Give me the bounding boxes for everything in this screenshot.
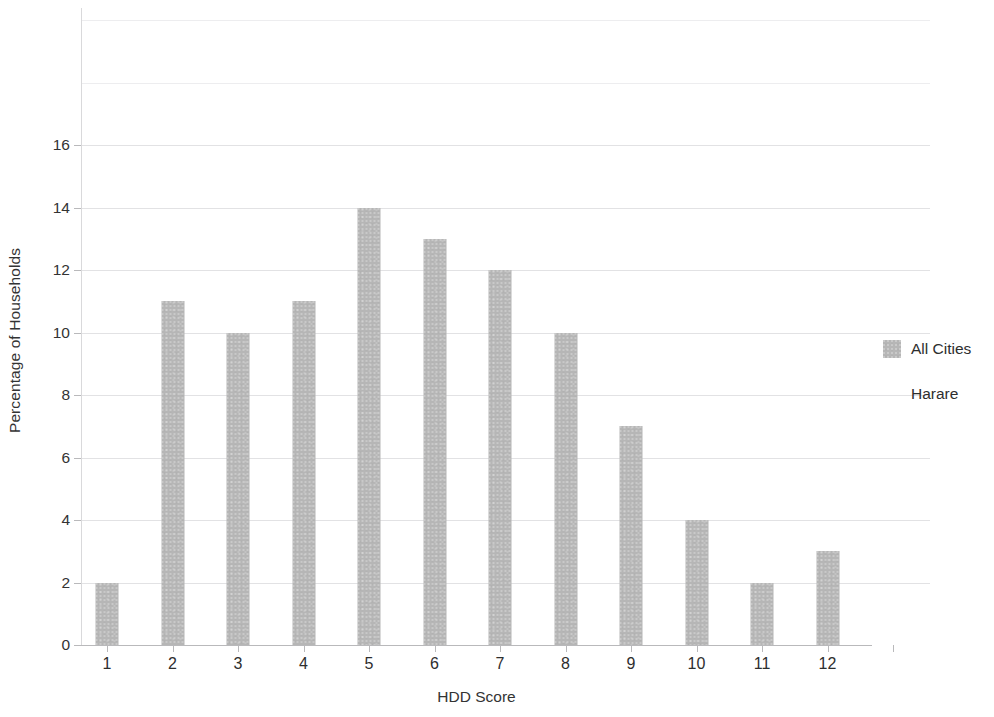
- bar: [489, 270, 512, 645]
- y-tick-mark: [74, 458, 81, 459]
- bar-chart: Percentage of Households 0246810121416 1…: [0, 0, 994, 717]
- y-tick-mark: [74, 333, 81, 334]
- gridline: [81, 208, 930, 209]
- y-tick-mark: [74, 145, 81, 146]
- legend-label: All Cities: [911, 340, 971, 358]
- y-tick-label: 8: [34, 386, 70, 404]
- y-tick-mark: [74, 208, 81, 209]
- bar: [816, 551, 839, 645]
- x-tick-mark: [304, 645, 305, 652]
- bar: [751, 583, 774, 646]
- gridline: [81, 145, 930, 146]
- x-tick-label: 7: [470, 655, 530, 673]
- y-tick-label: 12: [34, 261, 70, 279]
- bar: [358, 208, 381, 646]
- y-axis-title-label: Percentage of Households: [6, 248, 24, 433]
- legend-swatch-icon: [883, 340, 901, 358]
- x-tick-label: 11: [732, 655, 792, 673]
- gridline: [81, 83, 930, 84]
- y-tick-mark: [74, 395, 81, 396]
- x-tick-mark: [697, 645, 698, 652]
- x-tick-mark: [828, 645, 829, 652]
- x-tick-mark: [173, 645, 174, 652]
- y-tick-mark: [74, 645, 81, 646]
- y-axis-title: Percentage of Households: [0, 0, 30, 717]
- bar: [554, 333, 577, 646]
- bar: [620, 426, 643, 645]
- x-tick-mark: [369, 645, 370, 652]
- x-tick-label: 4: [274, 655, 334, 673]
- x-tick-label: 2: [143, 655, 203, 673]
- bar: [227, 333, 250, 646]
- bar: [423, 239, 446, 645]
- x-tick-label: 5: [339, 655, 399, 673]
- y-tick-label: 14: [34, 199, 70, 217]
- bar: [292, 301, 315, 645]
- x-tick-label: 10: [667, 655, 727, 673]
- y-tick-label: 0: [34, 636, 70, 654]
- y-axis-line: [81, 8, 82, 645]
- y-tick-label: 2: [34, 574, 70, 592]
- x-tick-mark: [500, 645, 501, 652]
- x-tick-mark: [893, 645, 894, 652]
- x-tick-label: 9: [601, 655, 661, 673]
- legend-label: Harare: [911, 385, 958, 403]
- gridline: [81, 20, 930, 21]
- x-tick-label: 8: [536, 655, 596, 673]
- legend-swatch-icon: [883, 385, 901, 403]
- bar: [161, 301, 184, 645]
- legend-item: All Cities: [883, 338, 971, 360]
- x-axis-line: [81, 645, 872, 646]
- x-tick-mark: [631, 645, 632, 652]
- y-tick-mark: [74, 583, 81, 584]
- x-tick-label: 1: [77, 655, 137, 673]
- y-tick-label: 6: [34, 449, 70, 467]
- bar: [685, 520, 708, 645]
- y-tick-label: 4: [34, 511, 70, 529]
- legend-item: Harare: [883, 383, 971, 405]
- x-tick-mark: [762, 645, 763, 652]
- x-tick-label: 6: [405, 655, 465, 673]
- x-tick-mark: [435, 645, 436, 652]
- y-tick-mark: [74, 520, 81, 521]
- y-tick-mark: [74, 270, 81, 271]
- x-axis-title: HDD Score: [81, 688, 872, 706]
- x-tick-mark: [107, 645, 108, 652]
- x-tick-mark: [238, 645, 239, 652]
- y-tick-label: 10: [34, 324, 70, 342]
- x-tick-label: 3: [208, 655, 268, 673]
- y-tick-label: 16: [34, 136, 70, 154]
- bar: [96, 583, 119, 646]
- x-tick-mark: [566, 645, 567, 652]
- x-tick-label: 12: [798, 655, 858, 673]
- chart-legend: All CitiesHarare: [883, 338, 971, 428]
